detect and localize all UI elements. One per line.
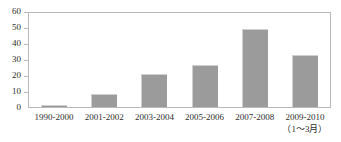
y-axis-tick-label: 10 xyxy=(12,87,21,96)
bar[interactable] xyxy=(292,55,318,107)
x-axis-tick-label-group: 2009-2010（1～3月） xyxy=(280,112,330,135)
y-axis-tick-label: 20 xyxy=(12,71,21,80)
bar[interactable] xyxy=(141,74,167,107)
y-axis-tick-label: 50 xyxy=(12,23,21,32)
x-axis-tick-label: 2007-2008 xyxy=(230,112,280,123)
y-axis-tick-label: 60 xyxy=(12,7,21,16)
bar[interactable] xyxy=(242,29,268,107)
x-axis-tick-label-group: 2007-2008 xyxy=(230,112,280,123)
x-axis-label-annotation: （1～3月） xyxy=(280,123,330,135)
x-axis-tick-label-group: 2005-2006 xyxy=(180,112,230,123)
bar-slot xyxy=(79,13,129,107)
bar-slot xyxy=(280,13,330,107)
x-axis-tick-label: 1990-2000 xyxy=(29,112,79,123)
bar[interactable] xyxy=(192,65,218,107)
bar-slot xyxy=(180,13,230,107)
bar[interactable] xyxy=(41,105,67,107)
y-axis: 0102030405060 xyxy=(0,0,26,142)
y-axis-tick-label: 0 xyxy=(17,103,22,112)
x-axis-tick-label: 2003-2004 xyxy=(129,112,179,123)
bar-slot xyxy=(129,13,179,107)
bar-slot xyxy=(29,13,79,107)
y-axis-tick-label: 30 xyxy=(12,55,21,64)
x-axis-tick-label-group: 2003-2004 xyxy=(129,112,179,123)
bar[interactable] xyxy=(91,94,117,107)
x-axis-tick-label: 2009-2010 xyxy=(280,112,330,123)
x-axis-tick-label-group: 2001-2002 xyxy=(79,112,129,123)
bar-chart: 0102030405060 1990-20002001-20022003-200… xyxy=(0,0,341,142)
x-axis-tick-label-group: 1990-2000 xyxy=(29,112,79,123)
bar-slot xyxy=(230,13,280,107)
x-axis-tick-label: 2001-2002 xyxy=(79,112,129,123)
x-axis: 1990-20002001-20022003-20042005-20062007… xyxy=(29,112,330,142)
bars-layer xyxy=(29,13,330,107)
y-axis-tick-label: 40 xyxy=(12,39,21,48)
x-axis-tick-label: 2005-2006 xyxy=(180,112,230,123)
